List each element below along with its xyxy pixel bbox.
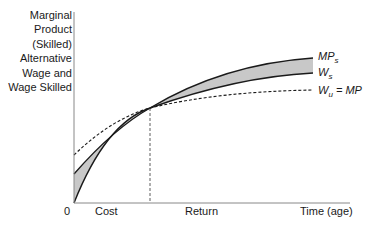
- wu-label-main: W: [318, 84, 328, 96]
- wu-label: Wu = MP: [318, 84, 362, 99]
- ws-label: Ws: [318, 66, 332, 81]
- mps-label: MPs: [318, 50, 339, 65]
- return-label: Return: [185, 205, 218, 217]
- return-shaded-region: [150, 58, 313, 108]
- cost-shaded-region: [74, 108, 150, 203]
- mps-label-main: MP: [318, 50, 335, 62]
- cost-label: Cost: [95, 205, 118, 217]
- wu-curve: [74, 90, 313, 155]
- mps-label-sub: s: [335, 56, 339, 65]
- chart-plot: [0, 0, 373, 227]
- ws-label-main: W: [318, 66, 328, 78]
- x-axis-label: Time (age): [300, 205, 353, 217]
- ws-label-sub: s: [328, 72, 332, 81]
- origin-label: 0: [64, 205, 70, 217]
- wu-label-tail: = MP: [333, 84, 362, 96]
